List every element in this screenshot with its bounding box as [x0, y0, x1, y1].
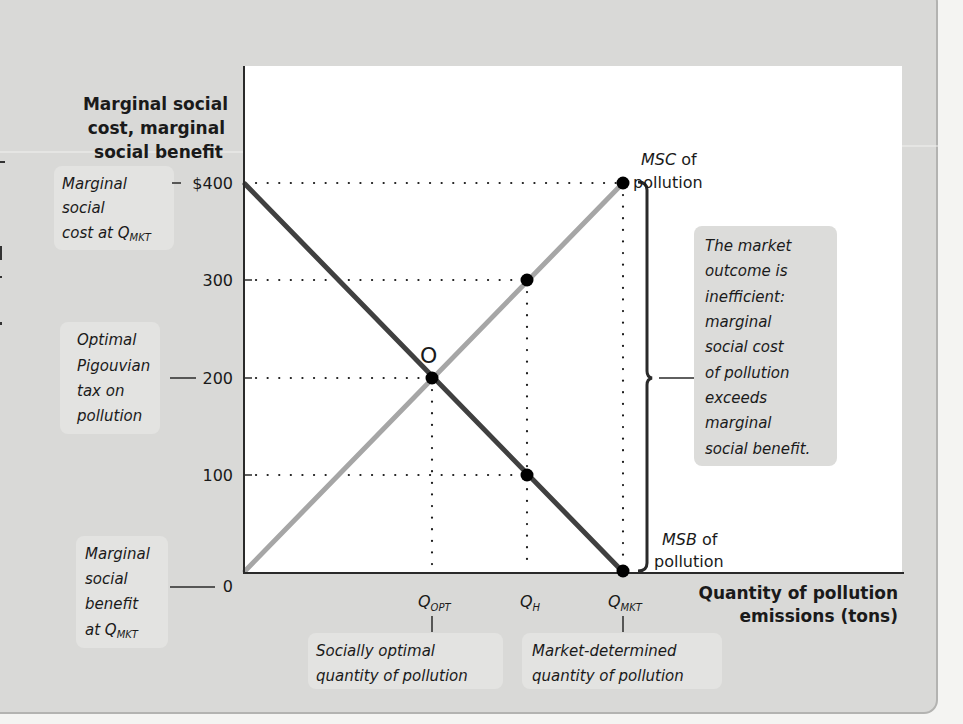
svg-text:benefit: benefit: [85, 595, 139, 613]
svg-text:Quantity of pollution: Quantity of pollution: [698, 583, 898, 603]
svg-text:Optimal: Optimal: [77, 331, 137, 349]
svg-text:MSC of: MSC of: [641, 150, 697, 169]
left-edge-artifacts: [0, 161, 5, 325]
chart: O Marginal social cost, marginal social …: [0, 0, 963, 724]
svg-text:inefficient:: inefficient:: [705, 288, 785, 306]
y-tick-labels: $400 300 200 100 0: [192, 174, 233, 596]
point-qh-msc: [521, 274, 534, 287]
svg-text:pollution: pollution: [76, 407, 142, 425]
svg-text:social: social: [85, 570, 129, 588]
svg-text:quantity of pollution: quantity of pollution: [316, 667, 468, 685]
svg-text:social benefit: social benefit: [94, 142, 223, 162]
svg-text:marginal: marginal: [705, 414, 772, 432]
x-tick-mkt: QMKT: [608, 592, 643, 613]
y-axis-title: Marginal social cost, marginal social be…: [83, 94, 228, 162]
x-tick-h: QH: [520, 592, 541, 613]
svg-text:Marginal social: Marginal social: [83, 94, 228, 114]
svg-text:marginal: marginal: [705, 313, 772, 331]
y-tick-0: 0: [223, 577, 233, 596]
svg-text:tax on: tax on: [77, 382, 124, 400]
svg-text:outcome is: outcome is: [705, 262, 788, 280]
x-tick-opt: QOPT: [418, 592, 451, 613]
svg-text:of pollution: of pollution: [705, 364, 790, 382]
point-qmkt-msc: [617, 177, 630, 190]
svg-text:pollution: pollution: [633, 173, 703, 192]
y-tick-200: 200: [202, 369, 233, 388]
svg-text:social: social: [62, 199, 106, 217]
svg-text:MSB of: MSB of: [662, 530, 718, 549]
y-tick-400: $400: [192, 174, 233, 193]
point-o-label: O: [420, 343, 437, 368]
x-tick-labels: QOPT QH QMKT: [418, 592, 643, 613]
svg-text:The market: The market: [705, 237, 793, 255]
svg-text:Pigouvian: Pigouvian: [77, 357, 150, 375]
x-axis-title: Quantity of pollution emissions (tons): [698, 583, 898, 626]
svg-text:pollution: pollution: [654, 552, 724, 571]
point-o: [426, 372, 439, 385]
svg-text:Marginal: Marginal: [62, 175, 128, 193]
point-qh-msb: [521, 469, 534, 482]
svg-text:emissions (tons): emissions (tons): [739, 606, 898, 626]
svg-text:quantity of pollution: quantity of pollution: [532, 667, 684, 685]
y-tick-100: 100: [202, 466, 233, 485]
svg-text:Socially optimal: Socially optimal: [316, 642, 436, 660]
svg-text:social benefit.: social benefit.: [705, 440, 810, 458]
y-tick-300: 300: [202, 271, 233, 290]
svg-text:cost, marginal: cost, marginal: [88, 118, 225, 138]
x-leader-marks: [432, 616, 623, 632]
point-qmkt-msb: [617, 565, 630, 578]
svg-text:Marginal: Marginal: [85, 545, 151, 563]
svg-text:social cost: social cost: [705, 338, 785, 356]
svg-text:exceeds: exceeds: [705, 389, 767, 407]
svg-text:Market-determined: Market-determined: [532, 642, 677, 660]
